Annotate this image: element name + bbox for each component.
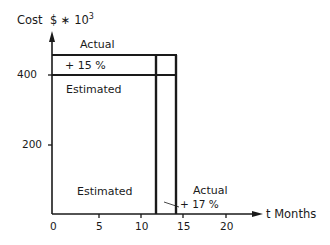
cost-estimated-label: Estimated xyxy=(66,84,122,95)
y-axis-arrow-icon xyxy=(49,31,55,42)
x-tick-20: 20 xyxy=(220,221,233,232)
x-tick-10: 10 xyxy=(135,221,148,232)
x-tick-0: 0 xyxy=(50,221,57,232)
y-axis-label: Cost $ ∗ 103 xyxy=(17,13,94,26)
time-estimated-label: Estimated xyxy=(77,186,133,197)
x-tick-15: 15 xyxy=(177,221,190,232)
cost-overrun-label: + 15 % xyxy=(65,60,106,71)
x-tick-5: 5 xyxy=(96,221,103,232)
time-overrun-label: + 17 % xyxy=(180,199,219,210)
y-tick-200: 200 xyxy=(22,139,42,150)
time-actual-label: Actual xyxy=(193,185,227,196)
y-tick-400: 400 xyxy=(17,69,37,80)
x-axis-label: t Months xyxy=(266,209,316,221)
cost-actual-label: Actual xyxy=(80,39,114,50)
x-axis-arrow-icon xyxy=(252,211,263,217)
